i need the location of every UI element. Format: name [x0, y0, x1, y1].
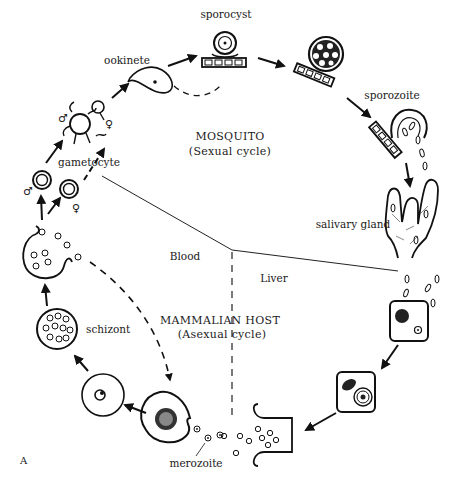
- label-schizont: schizont: [86, 323, 131, 335]
- sporocyst-icon: [202, 32, 246, 67]
- dashed-arrow-reinfection: [90, 262, 170, 380]
- arrow-to-rupture: [45, 285, 47, 306]
- arrow-to-male-gametocyte: [41, 196, 42, 220]
- arrow-sporocyst-to-mature: [258, 58, 284, 66]
- arrow-schizont-to-release: [306, 413, 336, 430]
- label-sexual-cycle: (Sexual cycle): [189, 145, 271, 158]
- arrow-to-schizont: [75, 356, 88, 371]
- label-salivary-gland: salivary gland: [316, 218, 391, 230]
- female-symbol-2: ♀: [105, 118, 113, 131]
- arrow-ookinete-to-sporocyst: [168, 56, 196, 66]
- sporozoite-icon: [369, 110, 427, 170]
- mature-oocyst-icon: [294, 37, 343, 87]
- life-cycle-diagram: ookinete sporocyst sporozoite salivary g…: [0, 0, 456, 486]
- liver-schizont-icon: [337, 372, 375, 412]
- female-symbol-1: ♀: [72, 202, 80, 215]
- label-sporocyst: sporocyst: [200, 8, 252, 20]
- arrow-liver-to-schizont: [382, 345, 398, 368]
- label-mosquito: MOSQUITO: [195, 130, 264, 143]
- male-gametocyte-icon: [33, 171, 51, 189]
- male-symbol-2: ♂: [58, 112, 68, 125]
- sporozoites-to-liver-icon: [403, 275, 439, 307]
- label-blood: Blood: [170, 250, 201, 262]
- female-gametocyte-icon: [60, 180, 78, 198]
- label-merozoite: merozoite: [169, 457, 222, 469]
- schizont-icon: [37, 309, 77, 349]
- salivary-gland-icon: [386, 180, 438, 258]
- label-ookinete: ookinete: [104, 54, 150, 66]
- male-symbol-1: ♂: [23, 185, 33, 198]
- liver-cell-early-icon: [390, 301, 428, 341]
- label-liver: Liver: [260, 272, 288, 284]
- arrow-to-female-gametocyte: [48, 198, 60, 214]
- label-mammalian-host: MAMMALIAN HOST: [160, 314, 280, 327]
- blood-merozoites-icon: [194, 426, 223, 456]
- label-sporozoite: sporozoite: [364, 89, 419, 101]
- ookinete-dashed-link: [174, 84, 222, 96]
- ring-stage-icon: [82, 374, 124, 416]
- rupturing-cell-icon: [23, 226, 81, 278]
- ookinete-icon: [128, 67, 172, 93]
- label-asexual-cycle: (Asexual cycle): [178, 328, 267, 341]
- infected-red-cell-icon: [141, 392, 190, 443]
- arrow-to-ookinete: [112, 84, 128, 98]
- label-gametocyte: gametocyte: [58, 156, 120, 168]
- arrow-to-salivary-gland: [406, 163, 410, 186]
- panel-letter: A: [19, 455, 28, 466]
- exflagellation-icon: [63, 101, 106, 144]
